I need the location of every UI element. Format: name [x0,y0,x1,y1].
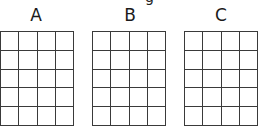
grid-cell [222,51,240,70]
grid-label-b: B [120,6,140,24]
grid-cell [93,32,111,51]
grid-cell [111,70,129,89]
grid-cell [93,70,111,89]
grid-cell [240,32,258,51]
grid-cell [222,107,240,126]
grid-cell [93,88,111,107]
grid-cell [148,51,166,70]
grid-cell [19,107,37,126]
grid-cell [1,107,19,126]
grid-cell [240,88,258,107]
grid-cell [38,107,56,126]
grid-cell [148,70,166,89]
grid-cell [185,32,203,51]
grid-cell [203,32,221,51]
grid-cell [1,51,19,70]
grid-cell [38,51,56,70]
grid-cell [148,88,166,107]
grid-cell [130,88,148,107]
grid-cell [240,70,258,89]
grid-cell [222,32,240,51]
grid-cell [38,32,56,51]
grid-cell [185,51,203,70]
grid-b [92,31,166,126]
grid-cell [203,107,221,126]
grid-c [184,31,258,126]
grid-cell [38,70,56,89]
grid-label-a: A [26,6,46,24]
grid-cell [148,32,166,51]
grid-cell [19,88,37,107]
grid-cell [56,51,74,70]
grid-cell [203,70,221,89]
grid-cell [130,51,148,70]
grid-cell [19,32,37,51]
grid-cell [93,107,111,126]
grid-cell [111,32,129,51]
grid-cell [111,51,129,70]
grid-cell [185,70,203,89]
grid-cell [240,107,258,126]
grid-cell [203,51,221,70]
grid-cell [1,70,19,89]
grid-cell [38,88,56,107]
grid-cell [222,88,240,107]
grid-cell [56,88,74,107]
grid-a [0,31,74,126]
grid-cell [111,88,129,107]
grid-cell [93,51,111,70]
grid-cell [19,51,37,70]
grid-cell [1,88,19,107]
grid-label-c: C [211,6,231,24]
grid-cell [19,70,37,89]
grid-cell [185,88,203,107]
grid-cell [130,70,148,89]
grid-cell [111,107,129,126]
grid-cell [56,32,74,51]
caption-partial-text: g [145,0,154,5]
grid-cell [185,107,203,126]
grid-cell [148,107,166,126]
grid-cell [130,107,148,126]
grid-cell [130,32,148,51]
grid-cell [222,70,240,89]
grid-cell [203,88,221,107]
grid-cell [56,107,74,126]
grid-cell [240,51,258,70]
grid-cell [56,70,74,89]
grid-cell [1,32,19,51]
